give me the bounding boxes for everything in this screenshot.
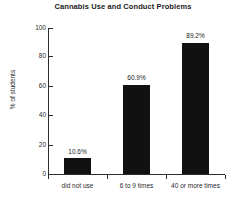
x-tick-3: [225, 175, 226, 179]
y-tick-label-0: 0: [24, 171, 46, 178]
y-tick-label-20: 20: [24, 142, 46, 149]
bar-value-40-or-more-times: 89.2%: [170, 33, 221, 40]
y-tick-label-80: 80: [24, 53, 46, 60]
bar-value-did-not-use: 10.6%: [52, 149, 103, 156]
y-tick-20: [49, 145, 53, 146]
bar-did-not-use: [64, 158, 91, 174]
y-tick-label-40: 40: [24, 112, 46, 119]
x-category-label-2: 40 or more times: [163, 183, 228, 190]
y-tick-label-100: 100: [24, 25, 46, 32]
x-tick-1: [107, 175, 108, 179]
x-category-label-0: did not use: [52, 183, 103, 190]
y-axis-line: [48, 28, 49, 175]
y-tick-100: [49, 28, 53, 29]
x-axis-line: [48, 174, 225, 175]
plot-area: 0 20 40 60 80 100 10.6% did not use 60.9…: [0, 0, 236, 205]
bar-6-to-9-times: [123, 85, 150, 175]
y-tick-0: [49, 174, 53, 175]
bar-chart: Cannabis Use and Conduct Problems % of s…: [0, 0, 236, 205]
y-tick-40: [49, 115, 53, 116]
y-tick-label-60: 60: [24, 83, 46, 90]
bar-value-6-to-9-times: 60.9%: [111, 75, 162, 82]
x-tick-0: [48, 175, 49, 179]
x-category-label-1: 6 to 9 times: [110, 183, 163, 190]
bar-40-or-more-times: [182, 43, 209, 174]
y-tick-60: [49, 86, 53, 87]
y-tick-80: [49, 56, 53, 57]
x-tick-2: [166, 175, 167, 179]
